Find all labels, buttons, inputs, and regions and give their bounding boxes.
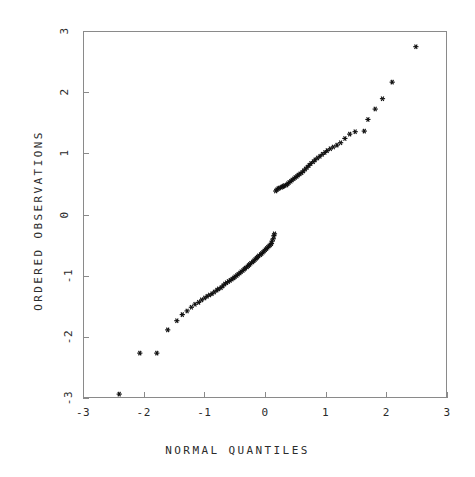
- x-axis-title: NORMAL QUANTILES: [0, 444, 475, 457]
- y-tick-2: [83, 276, 89, 277]
- plot-frame: [83, 31, 447, 398]
- y-tick-label-1: -2: [62, 330, 75, 344]
- y-tick-3: [83, 215, 89, 216]
- scatter-points-layer: [84, 32, 446, 397]
- data-point: [353, 129, 358, 134]
- data-point: [413, 44, 418, 49]
- y-tick-label-4: 1: [58, 150, 71, 157]
- data-point: [342, 136, 347, 141]
- data-point: [165, 328, 170, 333]
- y-tick-label-3: 0: [58, 211, 71, 218]
- data-point: [189, 305, 194, 310]
- x-tick-1: [144, 392, 145, 398]
- x-tick-4: [326, 392, 327, 398]
- data-point: [174, 318, 179, 323]
- x-tick-label-2: -1: [197, 406, 211, 419]
- y-axis-title: ORDERED OBSERVATIONS: [32, 111, 45, 331]
- data-point: [347, 132, 352, 137]
- data-point: [154, 351, 159, 356]
- y-tick-6: [83, 31, 89, 32]
- data-point: [185, 309, 190, 314]
- x-tick-label-4: 1: [322, 406, 329, 419]
- y-tick-label-5: 2: [58, 89, 71, 96]
- y-tick-label-0: -3: [62, 391, 75, 405]
- x-tick-label-6: 3: [443, 406, 450, 419]
- x-tick-label-5: 2: [383, 406, 390, 419]
- x-tick-2: [204, 392, 205, 398]
- x-tick-label-0: -3: [76, 406, 90, 419]
- data-point: [390, 80, 395, 85]
- data-point: [137, 351, 142, 356]
- x-tick-3: [265, 392, 266, 398]
- data-point: [338, 140, 343, 145]
- data-point: [180, 312, 185, 317]
- data-point: [380, 96, 385, 101]
- y-tick-1: [83, 337, 89, 338]
- y-tick-4: [83, 153, 89, 154]
- data-point: [117, 392, 122, 397]
- y-tick-label-6: 3: [58, 27, 71, 34]
- x-tick-label-1: -2: [137, 406, 151, 419]
- data-point: [373, 107, 378, 112]
- y-tick-5: [83, 92, 89, 93]
- y-tick-label-2: -1: [62, 269, 75, 283]
- x-tick-6: [447, 392, 448, 398]
- qq-plot-figure: -3-2-10123 -3-2-10123 NORMAL QUANTILES O…: [0, 0, 475, 477]
- y-tick-0: [83, 398, 89, 399]
- plot-area: [84, 32, 446, 397]
- x-tick-5: [386, 392, 387, 398]
- x-tick-label-3: 0: [261, 406, 268, 419]
- data-point: [365, 117, 370, 122]
- data-point: [362, 129, 367, 134]
